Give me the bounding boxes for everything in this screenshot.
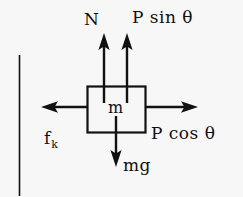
normal-force-label: N: [84, 11, 99, 28]
p-cos-theta-label: P cos θ: [151, 125, 215, 142]
friction-force-label-base: f: [44, 128, 51, 148]
p-sin-theta-label: P sin θ: [132, 9, 193, 26]
block-mass-label: m: [108, 100, 124, 116]
weight-force-label: mg: [123, 157, 151, 174]
free-body-diagram: N P sin θ fk P cos θ mg m: [0, 0, 243, 197]
friction-force-label: fk: [44, 130, 58, 150]
friction-force-label-subscript: k: [51, 138, 59, 151]
